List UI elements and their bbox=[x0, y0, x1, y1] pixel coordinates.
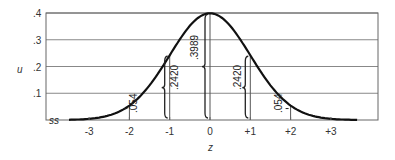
x-tick-label: +3 bbox=[325, 126, 337, 137]
x-tick-label: -2 bbox=[125, 126, 134, 137]
y-tick-label: .2 bbox=[33, 62, 42, 73]
y-tick-label: .3 bbox=[33, 35, 42, 46]
y-axis-ticks: .1.2.3.4 bbox=[33, 8, 42, 99]
ordinate-value-label: .2420 bbox=[169, 65, 180, 90]
x-tick-label: -1 bbox=[165, 126, 174, 137]
x-axis-label: z bbox=[207, 142, 213, 153]
y-tick-label: .1 bbox=[33, 88, 42, 99]
x-tick-label: -3 bbox=[85, 126, 94, 137]
axis-break-icon: ss bbox=[49, 115, 59, 126]
ordinate-value-label: .054 bbox=[128, 93, 139, 113]
gridlines bbox=[46, 13, 378, 93]
ordinate-value-label: .054 bbox=[273, 93, 284, 113]
x-tick-label: 0 bbox=[207, 126, 213, 137]
x-tick-label: +1 bbox=[245, 126, 257, 137]
ordinate-value-label: .3989 bbox=[189, 35, 200, 60]
y-tick-label: .4 bbox=[33, 8, 42, 19]
normal-curve-chart: .054.2420.3989.2420.054 -3-2-10+1+2+3 .1… bbox=[0, 0, 395, 160]
y-axis-label: u bbox=[17, 64, 23, 75]
ordinate-value-label: .2420 bbox=[232, 65, 243, 90]
x-tick-label: +2 bbox=[285, 126, 297, 137]
